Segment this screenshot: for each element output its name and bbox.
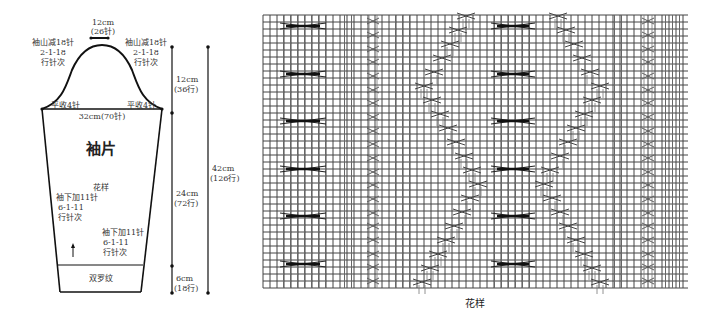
chart-title: 花样 [465,295,485,310]
pattern-chart [0,0,726,320]
